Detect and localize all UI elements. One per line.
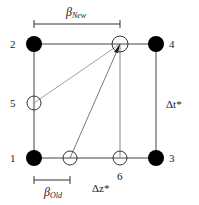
node-2	[26, 36, 42, 52]
node-1	[26, 150, 42, 166]
beta-old-bracket	[34, 176, 70, 184]
node-1-label: 1	[10, 152, 16, 164]
open-points	[27, 36, 128, 165]
beta-old-label: βOld	[43, 185, 63, 200]
node-2-label: 2	[10, 38, 16, 50]
node-5-label: 5	[10, 97, 16, 109]
node-6-label: 6	[117, 170, 123, 182]
node-3	[148, 150, 164, 166]
interpolation-lines	[34, 44, 120, 158]
beta-new-bracket	[34, 20, 120, 28]
node-4	[148, 36, 164, 52]
node-4-label: 4	[169, 38, 175, 50]
delta-t-label: Δt*	[166, 98, 182, 110]
delta-z-label: Δz*	[92, 182, 109, 194]
interpolation-grid-diagram: βNew 2 4 5 1 3 6 Δt* Δz* βOld	[0, 0, 199, 205]
beta-new-label: βNew	[65, 5, 87, 20]
node-3-label: 3	[169, 152, 175, 164]
